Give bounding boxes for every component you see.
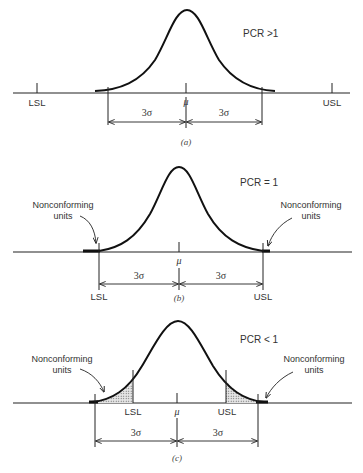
nonconforming-left-line2: units <box>53 211 73 221</box>
left-interval-label: 3σ <box>134 270 145 281</box>
right-interval-label: 3σ <box>219 107 230 118</box>
nonconforming-right-line2: units <box>301 211 321 221</box>
normal-curve <box>92 321 264 402</box>
usl-label: USL <box>254 291 272 302</box>
normal-curve <box>99 167 263 251</box>
left-interval-label: 3σ <box>142 107 153 118</box>
right-interval-label: 3σ <box>213 427 224 438</box>
panel-caption: (b) <box>174 293 185 303</box>
panel-c: LSL USL μ 3σ 3σ (c) PCR < 1 Nonconformin… <box>13 321 352 463</box>
nonconforming-right-line1: Nonconforming <box>280 200 341 210</box>
pcr-condition: PCR < 1 <box>240 334 279 345</box>
pcr-condition: PCR >1 <box>243 28 279 39</box>
mean-label: μ <box>175 255 181 266</box>
normal-curve <box>95 10 275 91</box>
right-interval-label: 3σ <box>216 270 227 281</box>
nonconforming-left-pointer <box>80 369 104 392</box>
panel-caption: (c) <box>172 453 182 463</box>
lsl-label: LSL <box>91 291 108 302</box>
nonconforming-right-pointer <box>266 372 293 398</box>
panel-a: LSL USL μ 3σ 3σ PCR >1 (a) <box>13 10 350 147</box>
nonconforming-left-line1: Nonconforming <box>31 354 92 364</box>
nonconforming-right-pointer <box>268 218 292 246</box>
nonconforming-left-line2: units <box>52 365 72 375</box>
nonconforming-right-line2: units <box>304 365 324 375</box>
left-interval-label: 3σ <box>131 427 142 438</box>
usl-label: USL <box>323 97 341 108</box>
nonconforming-right-line1: Nonconforming <box>283 354 344 364</box>
panel-caption: (a) <box>181 137 192 147</box>
nonconforming-left-line1: Nonconforming <box>32 200 93 210</box>
lsl-label: LSL <box>29 97 46 108</box>
lsl-label: LSL <box>125 406 142 417</box>
pcr-condition: PCR = 1 <box>240 177 279 188</box>
mean-label: μ <box>182 96 188 107</box>
nonconforming-left-pointer <box>80 216 96 243</box>
panel-b: μ 3σ 3σ LSL USL (b) PCR = 1 Nonconformin… <box>13 167 352 303</box>
pcr-diagram: LSL USL μ 3σ 3σ PCR >1 (a) μ 3σ 3σ LSL U… <box>0 0 363 473</box>
mean-label: μ <box>173 406 179 417</box>
usl-label: USL <box>218 406 236 417</box>
